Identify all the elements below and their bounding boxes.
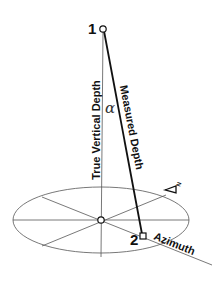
angle-alpha-label: α: [105, 99, 115, 117]
north-label: N: [175, 181, 182, 187]
point-2-marker: [140, 233, 146, 239]
north-arrow-icon: N: [165, 181, 182, 193]
wellbore-diagram: 1 2 α True Vertical Depth Measured Depth…: [0, 0, 219, 285]
point-2-label: 2: [130, 231, 138, 248]
true-vertical-depth-label: True Vertical Depth: [90, 80, 102, 180]
azimuth-line: [42, 197, 212, 265]
point-1-label: 1: [88, 20, 96, 37]
azimuth-label: Azimuth: [152, 230, 197, 257]
center-marker: [98, 217, 104, 223]
point-1-marker: [100, 26, 106, 32]
